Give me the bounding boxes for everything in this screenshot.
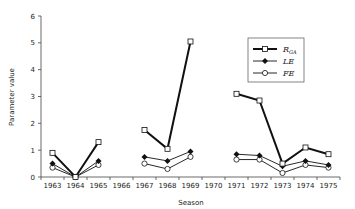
diamond-marker xyxy=(165,158,171,164)
x-tick-label: 1968 xyxy=(159,182,177,190)
y-axis-label: Parameter value xyxy=(8,68,16,126)
square-marker xyxy=(280,161,285,166)
series-line xyxy=(53,142,99,177)
square-marker xyxy=(50,150,55,155)
square-marker xyxy=(263,47,268,52)
square-marker xyxy=(142,128,147,133)
square-marker xyxy=(165,146,170,151)
y-tick-label: 4 xyxy=(31,66,36,74)
series-line xyxy=(237,94,329,164)
x-tick-label: 1972 xyxy=(251,182,269,190)
circle-marker xyxy=(262,70,267,75)
square-marker xyxy=(73,175,78,180)
square-marker xyxy=(96,140,101,145)
x-tick-label: 1964 xyxy=(67,182,85,190)
diamond-marker xyxy=(188,149,194,155)
x-tick-label: 1975 xyxy=(320,182,338,190)
legend-label: LE xyxy=(282,57,294,66)
circle-marker xyxy=(188,154,193,159)
x-tick-label: 1974 xyxy=(297,182,315,190)
circle-marker xyxy=(142,161,147,166)
diamond-marker xyxy=(234,151,240,157)
square-marker xyxy=(188,39,193,44)
x-tick-label: 1965 xyxy=(90,182,108,190)
circle-marker xyxy=(165,166,170,171)
y-tick-label: 6 xyxy=(31,13,36,21)
y-tick-label: 3 xyxy=(31,93,35,101)
line-chart: 0123456196319641965196619671968196919701… xyxy=(0,0,355,209)
x-tick-label: 1967 xyxy=(136,182,154,190)
y-tick-label: 5 xyxy=(31,39,35,47)
circle-marker xyxy=(280,170,285,175)
x-tick-label: 1970 xyxy=(205,182,223,190)
y-tick-label: 0 xyxy=(31,174,35,182)
legend-box xyxy=(248,38,304,82)
x-axis-label: Season xyxy=(178,199,203,207)
x-tick-label: 1969 xyxy=(182,182,200,190)
square-marker xyxy=(257,98,262,103)
square-marker xyxy=(303,145,308,150)
y-tick-label: 2 xyxy=(31,120,35,128)
legend: RGALEFE xyxy=(248,38,304,82)
legend-label: FE xyxy=(282,69,295,78)
square-marker xyxy=(326,152,331,157)
x-tick-label: 1973 xyxy=(274,182,292,190)
y-tick-label: 1 xyxy=(31,147,35,155)
x-tick-label: 1966 xyxy=(113,182,131,190)
series-line xyxy=(145,41,191,148)
square-marker xyxy=(234,91,239,96)
circle-marker xyxy=(234,157,239,162)
diamond-marker xyxy=(142,154,148,160)
x-tick-label: 1971 xyxy=(228,182,246,190)
x-tick-label: 1963 xyxy=(44,182,62,190)
